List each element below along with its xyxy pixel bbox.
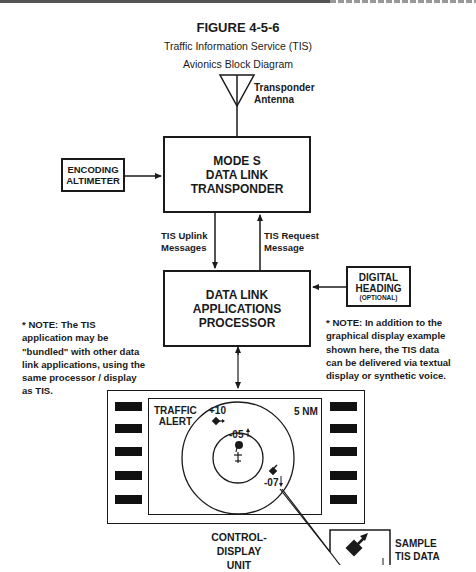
cdu-left-button-5[interactable] <box>115 495 142 504</box>
digital-heading-block: DIGITAL HEADING (OPTIONAL) <box>346 266 411 307</box>
uplink-label: TIS Uplink Messages <box>161 230 207 254</box>
cdu-right-button-1[interactable] <box>330 402 357 411</box>
cdu-left-button-4[interactable] <box>115 471 142 480</box>
cdu-left-button-2[interactable] <box>115 424 142 433</box>
antenna-label: Transponder Antenna <box>254 82 315 106</box>
cdu-right-button-4[interactable] <box>330 471 357 480</box>
antenna-icon <box>220 75 254 136</box>
target-plus10-label: +10 <box>209 405 226 416</box>
mode-s-transponder-label: MODE S DATA LINK TRANSPONDER <box>191 154 284 196</box>
cdu-left-button-1[interactable] <box>115 402 142 411</box>
cdu-right-button-2[interactable] <box>330 424 357 433</box>
cdu-right-button-3[interactable] <box>330 447 357 456</box>
request-label: TIS Request Message <box>264 230 319 254</box>
data-link-processor-block: DATA LINK APPLICATIONS PROCESSOR <box>163 270 311 347</box>
note-left: * NOTE: The TIS application may be "bund… <box>22 318 145 398</box>
digital-heading-label: DIGITAL HEADING <box>355 272 401 294</box>
sample-traffic-symbol-icon <box>346 533 383 565</box>
mode-s-transponder-block: MODE S DATA LINK TRANSPONDER <box>163 136 311 213</box>
traffic-alert-text: TRAFFIC ALERT <box>154 405 197 427</box>
digital-heading-optional: (OPTIONAL) <box>360 294 398 301</box>
cdu-left-button-3[interactable] <box>115 447 142 456</box>
note-right: * NOTE: In addition to the graphical dis… <box>326 316 451 382</box>
cdu-label: CONTROL- DISPLAY UNIT <box>194 530 284 572</box>
cdu-right-button-5[interactable] <box>330 495 357 504</box>
encoding-altimeter-label: ENCODING ALTIMETER <box>66 164 120 186</box>
target-minus05-label: -05 <box>229 429 243 440</box>
encoding-altimeter-block: ENCODING ALTIMETER <box>61 158 125 192</box>
data-link-processor-label: DATA LINK APPLICATIONS PROCESSOR <box>193 288 281 330</box>
sample-tis-data-label: SAMPLE TIS DATA <box>395 537 440 563</box>
range-text: 5 NM <box>294 406 318 417</box>
target-minus07-label: -07 <box>264 477 278 488</box>
